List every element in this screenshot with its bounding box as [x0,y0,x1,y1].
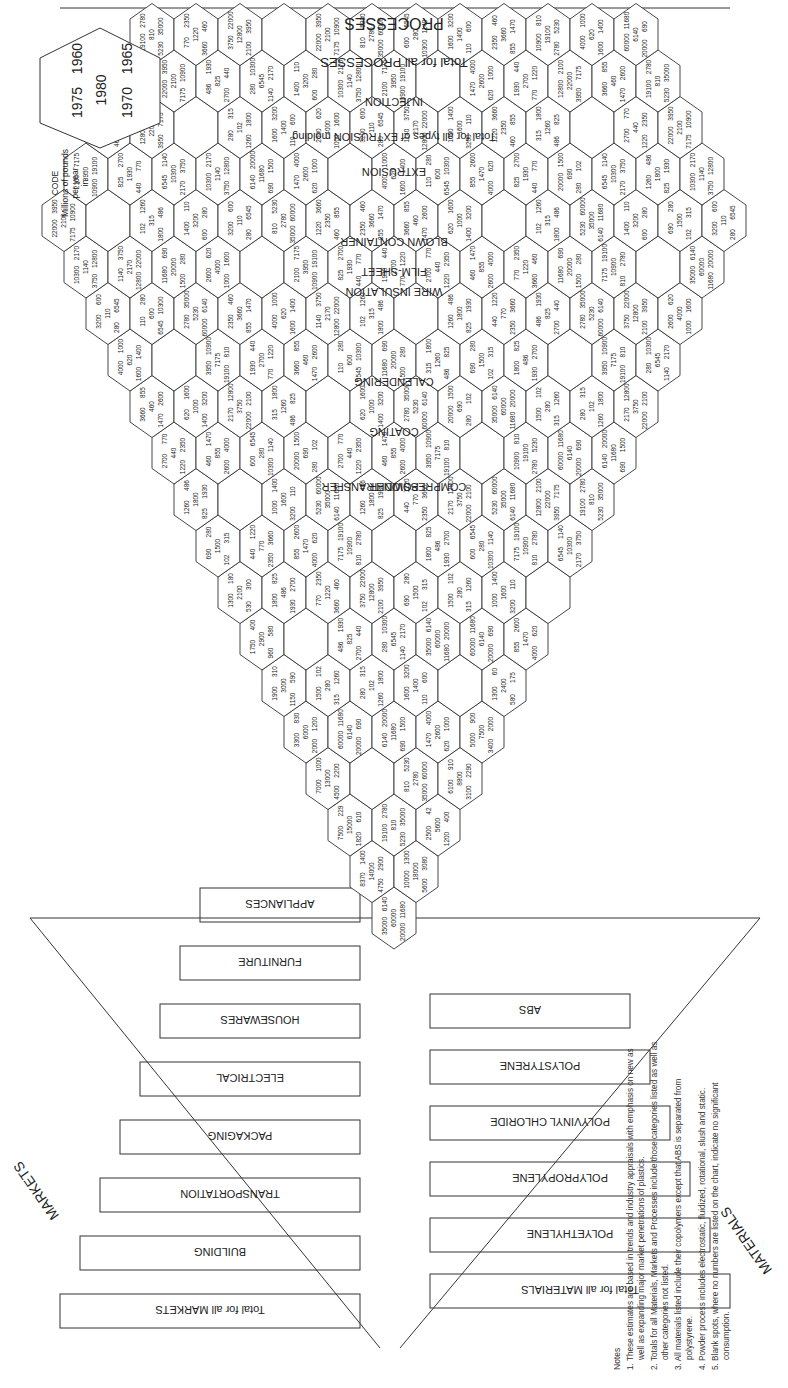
hex-value-1975: 1800 [513,360,520,375]
hex-value-1980: 1800 [456,306,463,321]
hex-value-1975: 280 [359,688,366,699]
hex-value-1975: 2500 [425,825,432,840]
hex-value-1980: 1400 [280,120,287,135]
hex-value-1970: 620 [311,182,318,193]
hex-value-1970: 7175 [685,134,692,149]
hex-value-1975: 855 [293,548,300,559]
hex-value-1970: 11680 [707,272,714,290]
hex-value-1960: 1800 [425,338,432,353]
hex-value-1965: 2100 [245,391,252,406]
hex-value-1960: 1800 [271,385,278,400]
hex-value-1970: 315 [465,601,472,612]
hex-value-1960: 2170 [205,152,212,167]
hex-value-1980: 1140 [214,167,221,181]
hex-value-1975: 3200 [95,314,102,329]
hex-value-1970: 1800 [157,227,164,242]
hex-value-1975: 486 [337,641,344,652]
hex-value-1965: 1800 [377,670,384,685]
material-label: POLYPROPYLENE [512,1172,608,1184]
hex-value-1965: 1140 [487,531,494,545]
hex-value-1970: 11680 [509,411,516,429]
hex-value-1970: 3950 [553,506,560,521]
hex-value-1980: 14000 [368,862,375,880]
hex-value-1965: 3750 [179,158,186,173]
hex-value-1975: 1400 [623,221,630,236]
hex-value-1975: 8370 [359,872,366,887]
hex-value-1980: 770 [258,540,265,551]
hex-value-1970: 3750 [91,273,98,288]
hex-value-1975: 5230 [491,500,498,515]
hex-value-1960: 2780 [645,59,652,74]
hex-value-1965: 690 [487,625,494,636]
hex-value-1965: 22000 [135,250,142,268]
hex-value-1970: 5230 [597,506,604,521]
hex-value-1965: 6545 [377,112,384,127]
hex-value-1980: 486 [434,540,441,551]
hex-value-1965: 315 [685,207,692,218]
hex-value-1975: 1400 [293,81,300,96]
hex-value-1960: 2350 [315,571,322,586]
hex-value-1980: 600 [148,308,155,319]
hex-value-1975: 810 [359,37,366,48]
hex-value-1965: 315 [421,579,428,590]
hex-value-1960: 2100 [557,59,564,74]
hex-value-1975: 855 [469,176,476,187]
hex-value-1975: 20000 [293,452,300,470]
hex-value-1975: 10000 [403,870,410,888]
hex-value-1975: 20000 [557,173,564,191]
hex-value-1980: 3950 [302,259,309,274]
hex-value-1980: 810 [390,819,397,830]
hex-value-1975: 2780 [403,407,410,422]
hex-value-1975: 4000 [579,35,586,50]
hex-value-1960: 1600 [447,199,454,214]
hex-value-1965: 1930 [465,298,472,313]
hex-value-1960: 2700 [513,152,520,167]
hex-value-1980: 1000 [456,213,463,228]
hex-value-1965: 2350 [641,112,648,127]
hex-value-1980: 1400 [456,27,463,42]
hex-value-1970: 1930 [289,599,296,614]
hex-value-1970: 4500 [333,785,340,800]
hex-value-1960: 22000 [359,569,366,587]
hex-value-1965: 4000 [399,437,406,452]
hex-value-1980: 6140 [632,27,639,42]
hex-value-1975: 1750 [249,639,256,654]
hex-value-1980: 60000 [434,630,441,648]
hex-value-1980: 10300 [610,165,617,183]
hex-value-1975: 1260 [359,500,366,515]
hex-value-1980: 2600 [478,73,485,88]
hex-value-1970: 1400 [377,413,384,428]
hex-value-1975: 620 [447,223,454,234]
hex-value-1975: 600 [249,455,256,466]
hex-value-1975: 1800 [271,593,278,608]
hex-value-1960: 1400 [491,571,498,586]
hex-value-1975: 60000 [469,638,476,656]
hex-value-1970: 690 [619,461,626,472]
hex-value-1970: 1470 [619,87,626,102]
hex-value-1975: 5230 [579,221,586,236]
hex-value-1975: 22000 [667,126,674,144]
hex-value-1980: 1260 [280,399,287,414]
hex-value-1975: 2700 [337,453,344,468]
market-label: PACKAGING [208,1130,273,1142]
hex-value-1960: 1800 [535,106,542,121]
process-label: INJECTION [365,96,423,108]
hex-value-1965: 2780 [531,530,538,545]
hex-value-1960: 600 [359,108,366,119]
hex-value-1960: 10900 [601,337,608,355]
hex-value-1965: 60000 [289,203,296,221]
hex-value-1975: 6100 [447,779,454,794]
hex-value-1965: 35000 [663,64,670,82]
material-label: POLYSTYRENE [500,1060,581,1072]
hex-value-1960: 19100 [601,244,608,262]
hex-value-1980: 6140 [478,631,485,646]
hex-value-1980: 12800 [236,25,243,43]
hex-value-1980: 3000 [280,678,287,693]
hex-value-1975: 280 [249,83,256,94]
hex-value-1965: 2200 [333,763,340,778]
hex-value-1975: 22000 [51,219,58,237]
hex-value-1965: 2350 [179,437,186,452]
hex-value-1980: 1500 [676,213,683,228]
hex-value-1960: 810 [535,15,542,26]
hex-value-1970: 1200 [443,831,450,846]
